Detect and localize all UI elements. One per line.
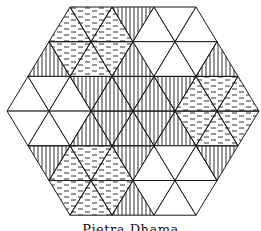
figure-caption: Pietra Dhama [0,222,261,231]
triangle-tiles [7,7,259,215]
hexagon-tiling-diagram [0,0,261,231]
